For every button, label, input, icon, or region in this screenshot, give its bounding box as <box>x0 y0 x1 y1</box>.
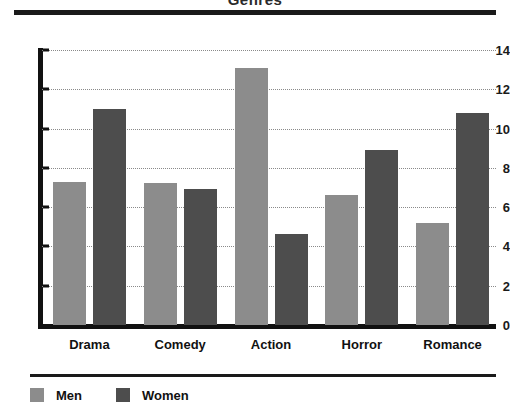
legend-swatch-women <box>116 388 130 402</box>
bar-romance-men[interactable] <box>416 223 449 325</box>
x-axis-labels: DramaComedyActionHorrorRomance <box>42 337 496 357</box>
legend-label-women: Women <box>142 388 189 403</box>
y-axis-tick-mark <box>43 206 49 209</box>
bar-action-women[interactable] <box>275 234 308 325</box>
bar-group <box>53 50 126 325</box>
bar-horror-women[interactable] <box>365 150 398 325</box>
y-axis-tick-label: 0 <box>484 318 510 333</box>
bar-horror-men[interactable] <box>325 195 358 325</box>
x-axis-label-action: Action <box>251 337 291 352</box>
bar-action-men[interactable] <box>235 68 268 325</box>
legend-item-women[interactable]: Women <box>116 388 189 403</box>
bar-drama-men[interactable] <box>53 182 86 325</box>
y-axis-tick-mark <box>43 245 49 248</box>
top-divider-rule <box>14 10 496 15</box>
bar-comedy-women[interactable] <box>184 189 217 325</box>
y-axis-tick-mark <box>43 127 49 130</box>
y-axis-tick-label: 4 <box>484 239 510 254</box>
y-axis-tick-mark <box>43 49 49 52</box>
y-axis-tick-label: 8 <box>484 160 510 175</box>
x-axis-label-horror: Horror <box>342 337 382 352</box>
bar-group <box>235 50 308 325</box>
y-axis-tick-mark <box>43 88 49 91</box>
bar-drama-women[interactable] <box>93 109 126 325</box>
y-axis-tick-label: 12 <box>484 82 510 97</box>
legend-item-men[interactable]: Men <box>30 388 82 403</box>
y-axis-tick-label: 10 <box>484 121 510 136</box>
bar-group <box>325 50 398 325</box>
bar-group <box>144 50 217 325</box>
bars-layer <box>42 50 496 325</box>
bar-comedy-men[interactable] <box>144 183 177 325</box>
x-axis-label-romance: Romance <box>423 337 482 352</box>
x-axis-label-drama: Drama <box>69 337 109 352</box>
legend-label-men: Men <box>56 388 82 403</box>
y-axis-tick-label: 6 <box>484 200 510 215</box>
y-axis-tick-label: 2 <box>484 278 510 293</box>
x-axis-label-comedy: Comedy <box>155 337 206 352</box>
y-axis-tick-mark <box>43 284 49 287</box>
legend-divider-rule <box>30 374 496 377</box>
chart-title: Genres <box>0 0 510 8</box>
y-axis-tick-mark <box>43 166 49 169</box>
chart-legend: MenWomen <box>30 385 223 405</box>
legend-swatch-men <box>30 388 44 402</box>
bar-group <box>416 50 489 325</box>
y-axis-tick-label: 14 <box>484 43 510 58</box>
